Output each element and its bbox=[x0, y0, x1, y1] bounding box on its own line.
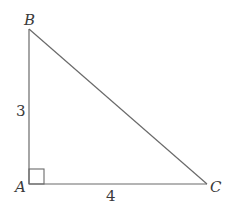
triangle-diagram: B A C 3 4 bbox=[0, 0, 231, 208]
vertex-label-b: B bbox=[23, 11, 35, 29]
side-label-ab: 3 bbox=[16, 102, 26, 120]
side-label-ac: 4 bbox=[106, 187, 116, 205]
vertex-label-a: A bbox=[13, 178, 26, 196]
side-bc-hypotenuse bbox=[29, 29, 207, 184]
right-angle-marker bbox=[29, 169, 44, 184]
vertex-label-c: C bbox=[210, 178, 222, 196]
